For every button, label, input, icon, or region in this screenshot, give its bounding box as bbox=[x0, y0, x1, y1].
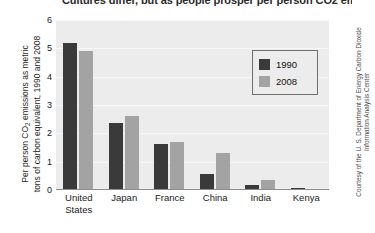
bar-china-2008 bbox=[216, 153, 230, 190]
x-tick-label: India bbox=[235, 192, 287, 204]
x-tick-label: China bbox=[189, 192, 241, 204]
x-tick-label: Japan bbox=[98, 192, 150, 204]
y-axis-ticks: 0123456 bbox=[36, 20, 52, 190]
bar-france-2008 bbox=[170, 142, 184, 190]
legend-label: 1990 bbox=[276, 59, 297, 70]
bar-group bbox=[147, 20, 193, 190]
y-tick-label: 2 bbox=[38, 128, 52, 138]
x-tick-label-line: France bbox=[155, 192, 185, 203]
x-tick-label-line: Kenya bbox=[293, 192, 320, 203]
y-tick-label: 1 bbox=[38, 157, 52, 167]
bar-group bbox=[193, 20, 239, 190]
y-tick-label: 4 bbox=[38, 72, 52, 82]
bar-group bbox=[102, 20, 148, 190]
legend-swatch-icon bbox=[259, 59, 270, 70]
y-tick-label: 5 bbox=[38, 43, 52, 53]
x-tick-label-line: Japan bbox=[111, 192, 137, 203]
bar-group bbox=[238, 20, 284, 190]
bar-france-1990 bbox=[154, 144, 168, 190]
x-axis-line bbox=[56, 189, 329, 190]
x-tick-label: France bbox=[144, 192, 196, 204]
bar-united-states-1990 bbox=[63, 43, 77, 190]
bar-group bbox=[56, 20, 102, 190]
x-tick-label-line: India bbox=[250, 192, 271, 203]
x-tick-label-line: States bbox=[65, 204, 92, 215]
y-tick-label: 6 bbox=[38, 15, 52, 25]
bar-japan-2008 bbox=[125, 116, 139, 190]
chart-screenshot: Cultures differ, but as people prosper p… bbox=[0, 0, 375, 233]
bar-japan-1990 bbox=[109, 123, 123, 190]
x-tick-label: Kenya bbox=[280, 192, 332, 204]
legend-item: 1990 bbox=[259, 56, 317, 73]
y-axis-label-subscript: 2 bbox=[24, 122, 31, 126]
x-tick-label-line: United bbox=[65, 192, 92, 203]
legend-item: 2008 bbox=[259, 73, 317, 90]
chart-credit: Courtesy of the U. S. Department of Ener… bbox=[355, 22, 371, 202]
bar-united-states-2008 bbox=[79, 51, 93, 190]
legend-swatch-icon bbox=[259, 76, 270, 87]
chart-headline: Cultures differ, but as people prosper p… bbox=[62, 0, 352, 6]
bar-group bbox=[284, 20, 330, 190]
x-tick-label-line: China bbox=[203, 192, 228, 203]
x-tick-label: UnitedStates bbox=[53, 192, 105, 215]
plot-area bbox=[56, 20, 329, 190]
x-axis-labels: UnitedStatesJapanFranceChinaIndiaKenya bbox=[56, 192, 329, 232]
y-axis-label-part1: Per person CO bbox=[20, 126, 30, 183]
y-tick-label: 3 bbox=[38, 100, 52, 110]
chart-legend: 19902008 bbox=[252, 50, 318, 95]
y-tick-label: 0 bbox=[38, 185, 52, 195]
legend-label: 2008 bbox=[276, 76, 297, 87]
bar-china-1990 bbox=[200, 174, 214, 190]
y-axis-label-part2: emissions as metric bbox=[20, 45, 30, 122]
